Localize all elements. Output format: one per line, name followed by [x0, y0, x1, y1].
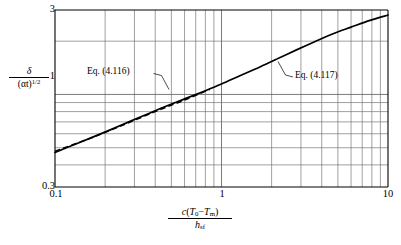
x-tick-label-mid: 1: [212, 188, 232, 199]
annotation-leaders: [154, 62, 294, 90]
x-axis-label: c(T0−Tm) hsf: [148, 206, 252, 231]
x-axis-label-h-sub: sf: [200, 223, 205, 230]
y-axis-label-denominator: (αt)1/2: [6, 78, 52, 89]
x-axis-label-numerator: c(T0−Tm): [148, 206, 252, 218]
leader-line-eq-4-116: [154, 74, 170, 90]
y-axis-label: δ (αt)1/2: [6, 66, 52, 89]
x-axis-label-denominator: hsf: [148, 219, 252, 231]
x-axis-label-close-paren: ): [215, 206, 218, 217]
figure-container: 3 1 0.3 0.1 1 10 Eq. (4.116) Eq. (4.117)…: [0, 0, 401, 245]
x-grid-lines: [105, 10, 380, 187]
y-tick-label-top: 3: [41, 3, 55, 14]
x-tick-label-right: 10: [378, 188, 398, 199]
leader-line-eq-4-117: [278, 62, 293, 78]
y-axis-label-denominator-exponent: 1/2: [32, 78, 40, 85]
x-tick-label-left: 0.1: [44, 188, 68, 199]
annotation-eq-4-116: Eq. (4.116): [87, 66, 130, 76]
y-axis-label-denominator-base: (αt): [18, 79, 32, 89]
annotation-eq-4-117: Eq. (4.117): [295, 70, 338, 80]
y-axis-label-numerator: δ: [6, 66, 52, 77]
